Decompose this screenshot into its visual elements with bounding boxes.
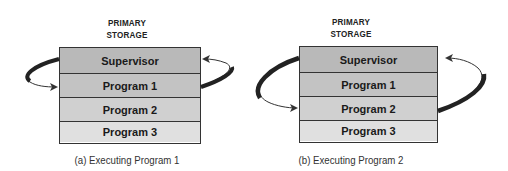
panel-a: PRIMARY STORAGE Supervisor Program 1 Pro… <box>0 0 254 171</box>
panel-b: PRIMARY STORAGE Supervisor Program 1 Pro… <box>254 0 508 171</box>
control-flow-arrows <box>254 0 508 171</box>
control-flow-arrows <box>0 0 254 171</box>
